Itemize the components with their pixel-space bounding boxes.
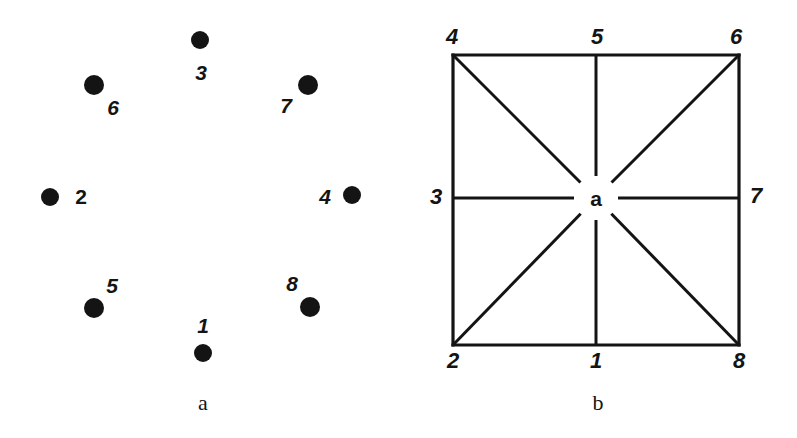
panel-a-point-set: 3 6 7 2 4 5 8 1 a — [0, 0, 400, 438]
dot-label-2: 2 — [75, 186, 87, 207]
dot-6 — [84, 75, 104, 95]
node-label-5: 5 — [591, 26, 603, 48]
center-node-label-a: a — [587, 187, 605, 210]
spoke-a-2 — [453, 214, 581, 345]
spoke-a-4 — [453, 55, 580, 182]
node-label-8: 8 — [733, 350, 745, 372]
dot-label-3: 3 — [195, 62, 207, 83]
figure-root: 3 6 7 2 4 5 8 1 a 4 5 6 3 7 2 1 8 a b — [0, 0, 797, 438]
panel-b-connectivity-square: 4 5 6 3 7 2 1 8 a b — [400, 0, 797, 438]
dot-7 — [298, 75, 318, 95]
spoke-a-8 — [611, 214, 739, 345]
dot-5 — [84, 298, 104, 318]
dot-4 — [343, 186, 361, 204]
spoke-a-6 — [612, 55, 739, 182]
dot-label-4: 4 — [319, 186, 331, 207]
dot-8 — [300, 297, 320, 317]
node-label-7: 7 — [750, 185, 762, 207]
panel-a-caption: a — [198, 392, 208, 414]
dot-2 — [41, 188, 59, 206]
dot-label-7: 7 — [280, 95, 292, 116]
dot-label-6: 6 — [107, 97, 119, 118]
node-label-2: 2 — [447, 350, 459, 372]
dot-label-1: 1 — [197, 315, 209, 336]
dot-label-8: 8 — [286, 273, 298, 294]
node-label-1: 1 — [590, 350, 602, 372]
dot-1 — [194, 344, 212, 362]
node-label-3: 3 — [430, 186, 442, 208]
dot-label-5: 5 — [106, 275, 118, 296]
node-label-4: 4 — [446, 26, 458, 48]
node-label-6: 6 — [730, 26, 742, 48]
dot-3 — [191, 31, 209, 49]
panel-b-caption: b — [593, 392, 604, 414]
